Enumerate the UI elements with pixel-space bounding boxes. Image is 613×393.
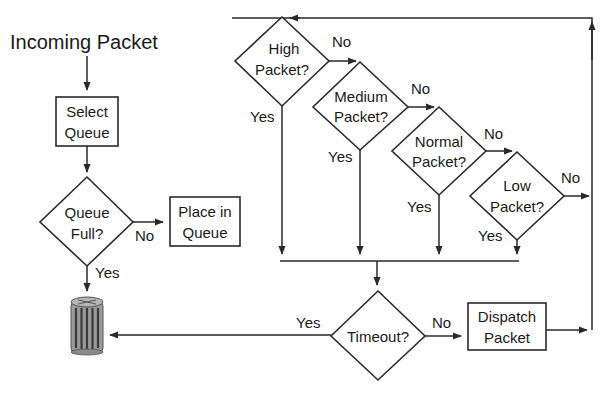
timeout-decision: Timeout? xyxy=(331,291,425,380)
medium-packet-label-1: Medium xyxy=(334,88,387,105)
medium-no-label: No xyxy=(411,80,430,97)
queue-full-yes-label: Yes xyxy=(95,264,119,281)
high-packet-decision: High Packet? xyxy=(235,17,329,106)
low-no-label: No xyxy=(561,169,580,186)
packet-queue-flowchart: Incoming Packet Select Queue Queue Full?… xyxy=(0,0,613,393)
normal-packet-label-1: Normal xyxy=(415,133,463,150)
select-queue-box: Select Queue xyxy=(56,97,118,146)
normal-no-label: No xyxy=(484,125,503,142)
place-in-queue-label-2: Queue xyxy=(182,224,227,241)
dispatch-packet-label-1: Dispatch xyxy=(478,308,536,325)
low-yes-label: Yes xyxy=(478,227,502,244)
medium-packet-label-2: Packet? xyxy=(334,108,388,125)
queue-full-label-1: Queue xyxy=(64,204,109,221)
place-in-queue-box: Place in Queue xyxy=(170,197,240,246)
high-packet-label-2: Packet? xyxy=(255,61,309,78)
place-in-queue-label-1: Place in xyxy=(178,203,231,220)
normal-yes-label: Yes xyxy=(407,198,431,215)
normal-packet-label-2: Packet? xyxy=(412,153,466,170)
select-queue-label-1: Select xyxy=(66,103,109,120)
select-queue-label-2: Queue xyxy=(64,124,109,141)
diagram-title: Incoming Packet xyxy=(10,31,158,53)
timeout-yes-label: Yes xyxy=(296,314,320,331)
timeout-no-label: No xyxy=(432,314,451,331)
high-packet-label-1: High xyxy=(269,40,300,57)
queue-full-no-label: No xyxy=(135,227,154,244)
queue-full-label-2: Full? xyxy=(71,225,104,242)
high-yes-label: Yes xyxy=(250,108,274,125)
low-packet-label-2: Packet? xyxy=(490,198,544,215)
trash-can-icon xyxy=(71,297,103,355)
queue-full-decision: Queue Full? xyxy=(40,177,133,266)
medium-yes-label: Yes xyxy=(328,148,352,165)
timeout-label: Timeout? xyxy=(347,328,409,345)
dispatch-packet-label-2: Packet xyxy=(484,329,531,346)
dispatch-packet-box: Dispatch Packet xyxy=(468,303,546,350)
medium-packet-decision: Medium Packet? xyxy=(313,62,408,150)
low-packet-label-1: Low xyxy=(503,177,531,194)
normal-packet-decision: Normal Packet? xyxy=(392,107,486,195)
high-no-label: No xyxy=(332,33,351,50)
